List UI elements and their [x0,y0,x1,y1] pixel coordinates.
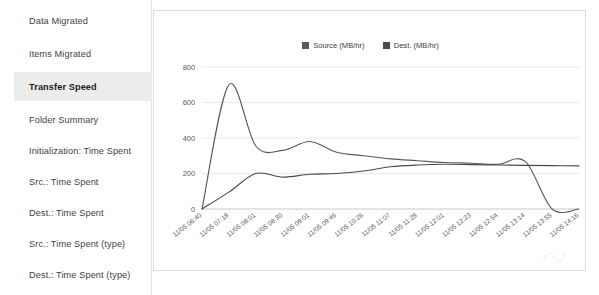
y-axis-tick-label: 600 [183,98,195,107]
sidebar-item-label: Transfer Speed [29,82,97,92]
y-axis-tick-label: 0 [191,205,195,214]
sidebar-item-items-migrated[interactable]: Items Migrated [14,39,152,68]
sidebar-item-label: Src.: Time Spent [29,177,99,187]
sidebar-item-data-migrated[interactable]: Data Migrated [14,6,152,35]
sidebar-item-initialization-time-spent[interactable]: Initialization: Time Spent [14,136,152,165]
sidebar-item-label: Data Migrated [29,16,88,26]
sidebar-item-folder-summary[interactable]: Folder Summary [14,105,152,134]
sidebar-item-dest-time-spent[interactable]: Dest.: Time Spent [14,198,152,227]
sidebar-item-src-time-spent-type[interactable]: Src.: Time Spent (type) [14,229,152,258]
report-sidebar: Data Migrated Items Migrated Transfer Sp… [0,0,152,295]
y-axis-tick-label: 400 [183,134,195,143]
sidebar-item-label: Items Migrated [29,49,91,59]
sidebar-item-label: Dest.: Time Spent [29,208,104,218]
sidebar-item-label: Src.: Time Spent (type) [29,239,125,249]
y-axis-tick-label: 800 [183,63,195,72]
sidebar-item-transfer-speed[interactable]: Transfer Speed [14,72,152,101]
sidebar-item-src-time-spent[interactable]: Src.: Time Spent [14,167,152,196]
sidebar-item-dest-time-spent-type[interactable]: Dest.: Time Spent (type) [14,260,152,289]
x-axis-tick-label: 11/05 14:16 [548,211,580,238]
x-axis-tick-label: 11/05 10:26 [333,211,365,238]
sidebar-item-label: Folder Summary [29,115,98,125]
transfer-speed-report: Data Migrated Items Migrated Transfer Sp… [0,0,599,295]
sidebar-item-label: Dest.: Time Spent (type) [29,270,130,280]
x-axis-tick-label: 11/05 11:07 [360,211,391,238]
sidebar-item-label: Initialization: Time Spent [29,146,131,156]
scan-artifact [541,246,567,264]
line-chart-plot: 020040060080011/05 06:4011/05 07:1811/05… [154,11,587,272]
series-line-dest [202,164,579,209]
transfer-speed-chart-panel: Source (MB/hr) Dest. (MB/hr) 02004006008… [153,10,586,271]
y-axis-tick-label: 200 [183,169,195,178]
